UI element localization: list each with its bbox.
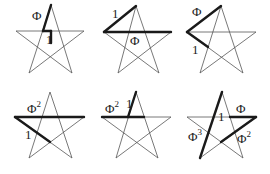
label-one: 1 (126, 96, 133, 111)
highlight-segment-one (104, 6, 136, 32)
label-phi-squared: Φ2 (105, 99, 119, 116)
pentagram-panel-2: 1 Φ (104, 6, 171, 73)
label-one: 1 (192, 42, 199, 57)
pentagram-panel-5: Φ2 1 (102, 92, 171, 158)
highlight-segment-phi-cubed (200, 92, 222, 158)
label-phi: Φ (192, 4, 202, 19)
label-phi-squared: Φ2 (27, 99, 41, 116)
label-phi: Φ (130, 33, 140, 48)
label-one: 1 (218, 109, 225, 124)
label-phi: Φ (236, 101, 246, 116)
label-one: 1 (112, 6, 119, 21)
pentagram-panel-1: Φ 1 (16, 5, 84, 73)
pentagram-panel-4: Φ2 1 (15, 92, 84, 158)
label-one: 1 (46, 32, 53, 47)
pentagram-panel-6: 1 Φ Φ3 Φ2 (187, 92, 256, 158)
label-one: 1 (25, 127, 32, 142)
highlight-segment-phi (43, 5, 51, 31)
label-phi-squared: Φ2 (237, 129, 251, 146)
label-phi-cubed: Φ3 (188, 127, 203, 144)
pentagram-panel-3: Φ 1 (187, 4, 256, 73)
pentagram-figure: Φ 1 1 Φ Φ 1 Φ2 1 Φ2 1 1 Φ (0, 0, 270, 174)
highlight-segment-one (15, 117, 50, 142)
label-phi: Φ (32, 8, 42, 23)
